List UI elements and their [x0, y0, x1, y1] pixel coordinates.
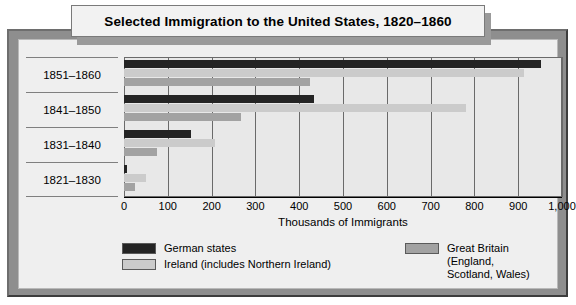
x-tick-label: 1,000: [548, 200, 576, 212]
legend-item: German states: [122, 242, 236, 255]
legend-swatch-britain: [405, 243, 439, 254]
x-tick-label: 0: [121, 200, 127, 212]
legend-label: Great Britain (England, Scotland, Wales): [447, 242, 541, 281]
bar: [124, 148, 157, 156]
bar: [124, 78, 310, 86]
category-row: 1841–1850: [26, 92, 118, 127]
plot-area: [117, 57, 562, 197]
bar: [124, 104, 466, 112]
bar: [124, 165, 127, 173]
x-tick-label: 100: [159, 200, 177, 212]
category-label: 1831–1840: [43, 139, 101, 151]
title-plate: Selected Immigration to the United State…: [71, 5, 485, 37]
x-tick-label: 400: [290, 200, 308, 212]
bar: [124, 113, 241, 121]
bar: [124, 183, 135, 191]
category-row: 1821–1830: [26, 162, 118, 197]
category-label: 1851–1860: [43, 69, 101, 81]
bar: [124, 60, 541, 68]
gridline-800: [474, 57, 475, 197]
bar: [124, 95, 314, 103]
gridline-900: [518, 57, 519, 197]
category-label: 1821–1830: [43, 174, 101, 186]
bar: [124, 174, 146, 182]
gridline-700: [431, 57, 432, 197]
gridline-500: [343, 57, 344, 197]
x-tick-label: 500: [334, 200, 352, 212]
bar: [124, 69, 524, 77]
page-title: Selected Immigration to the United State…: [104, 14, 451, 29]
x-tick-label: 700: [421, 200, 439, 212]
category-row: 1851–1860: [26, 57, 118, 92]
x-tick-label: 200: [202, 200, 220, 212]
legend-item: Ireland (includes Northern Ireland): [122, 258, 331, 271]
x-axis-line: [124, 197, 562, 198]
legend-item: Great Britain (England, Scotland, Wales): [405, 242, 541, 281]
legend-swatch-ireland: [122, 259, 156, 270]
x-tick-label: 800: [465, 200, 483, 212]
chart-legend: German statesIreland (includes Northern …: [17, 240, 541, 280]
gridline-1000: [562, 57, 563, 197]
category-row: 1831–1840: [26, 127, 118, 162]
bar: [124, 139, 215, 147]
category-axis: 1851–18601841–18501831–18401821–1830: [26, 57, 118, 198]
gridline-600: [387, 57, 388, 197]
x-tick-label: 900: [509, 200, 527, 212]
x-axis-title: Thousands of Immigrants: [124, 216, 562, 228]
bar: [124, 130, 191, 138]
legend-label: Ireland (includes Northern Ireland): [164, 258, 331, 271]
x-tick-label: 300: [246, 200, 264, 212]
category-label: 1841–1850: [43, 104, 101, 116]
legend-label: German states: [164, 242, 236, 255]
x-tick-label: 600: [378, 200, 396, 212]
legend-swatch-german: [122, 243, 156, 254]
